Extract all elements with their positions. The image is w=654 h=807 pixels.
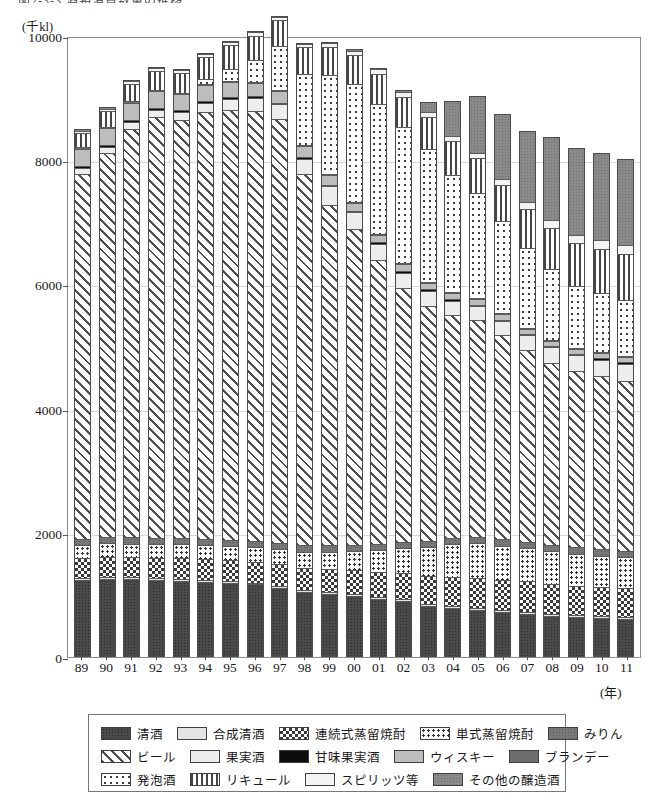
bar-column[interactable] xyxy=(292,38,317,657)
legend-swatch-icon xyxy=(433,773,463,786)
legend-item-スピリッツ等[interactable]: スピリッツ等 xyxy=(305,770,419,789)
stacked-bar[interactable] xyxy=(197,53,214,657)
legend-row: 発泡酒リキュールスピリッツ等その他の醸造酒 xyxy=(101,768,555,791)
legend-item-単式蒸留焼酎[interactable]: 単式蒸留焼酎 xyxy=(420,724,534,743)
bar-segment-単式蒸留焼酎 xyxy=(174,545,189,559)
bar-column[interactable] xyxy=(218,38,243,657)
bar-column[interactable] xyxy=(613,38,638,657)
bar-column[interactable] xyxy=(465,38,490,657)
bar-segment-連続式蒸留焼酎 xyxy=(297,569,312,591)
stacked-bar[interactable] xyxy=(370,68,387,657)
x-tick-label: 07 xyxy=(515,660,540,682)
bar-segment-単式蒸留焼酎 xyxy=(124,545,139,558)
legend-item-リキュール[interactable]: リキュール xyxy=(190,770,291,789)
stacked-bar[interactable] xyxy=(469,96,486,657)
bar-column[interactable] xyxy=(589,38,614,657)
legend-item-ウィスキー[interactable]: ウィスキー xyxy=(394,747,495,766)
legend-swatch-icon xyxy=(101,773,131,786)
bar-segment-清酒 xyxy=(371,600,386,656)
bar-segment-連続式蒸留焼酎 xyxy=(371,573,386,598)
stacked-bar[interactable] xyxy=(543,137,560,657)
stacked-bar[interactable] xyxy=(271,16,288,657)
legend-label: 連続式蒸留焼酎 xyxy=(315,724,406,743)
x-tick-label: 94 xyxy=(193,660,218,682)
bar-segment-リキュール xyxy=(470,159,485,194)
bar-column[interactable] xyxy=(243,38,268,657)
bar-segment-清酒 xyxy=(297,593,312,656)
bar-column[interactable] xyxy=(95,38,120,657)
legend-item-合成清酒[interactable]: 合成清酒 xyxy=(177,724,265,743)
bar-segment-ビール xyxy=(544,364,559,546)
stacked-bar[interactable] xyxy=(617,159,634,657)
bar-column[interactable] xyxy=(515,38,540,657)
stacked-bar[interactable] xyxy=(74,129,91,657)
bar-column[interactable] xyxy=(194,38,219,657)
bar-column[interactable] xyxy=(70,38,95,657)
bar-column[interactable] xyxy=(564,38,589,657)
bar-segment-清酒 xyxy=(445,609,460,656)
bar-column[interactable] xyxy=(441,38,466,657)
bar-column[interactable] xyxy=(268,38,293,657)
stacked-bar[interactable] xyxy=(593,153,610,657)
bar-column[interactable] xyxy=(391,38,416,657)
bar-segment-果実酒 xyxy=(544,348,559,363)
bar-column[interactable] xyxy=(490,38,515,657)
stacked-bar[interactable] xyxy=(99,107,116,657)
bar-segment-スピリッツ等 xyxy=(594,241,609,250)
bar-segment-ウィスキー xyxy=(272,92,287,104)
stacked-bar[interactable] xyxy=(123,80,140,657)
bar-segment-果実酒 xyxy=(495,322,510,336)
stacked-bar[interactable] xyxy=(346,49,363,657)
legend-item-連続式蒸留焼酎[interactable]: 連続式蒸留焼酎 xyxy=(279,724,406,743)
bar-segment-果実酒 xyxy=(223,100,238,111)
bar-segment-連続式蒸留焼酎 xyxy=(569,587,584,617)
bar-segment-果実酒 xyxy=(371,245,386,261)
bar-segment-果実酒 xyxy=(248,99,263,111)
bar-segment-清酒 xyxy=(198,583,213,656)
bar-column[interactable] xyxy=(169,38,194,657)
stacked-bar[interactable] xyxy=(494,114,511,657)
stacked-bar[interactable] xyxy=(321,42,338,657)
bar-column[interactable] xyxy=(144,38,169,657)
legend-item-その他の醸造酒[interactable]: その他の醸造酒 xyxy=(433,770,560,789)
bar-column[interactable] xyxy=(539,38,564,657)
stacked-bar[interactable] xyxy=(568,148,585,657)
bar-column[interactable] xyxy=(342,38,367,657)
legend-item-清酒[interactable]: 清酒 xyxy=(101,724,163,743)
stacked-bar[interactable] xyxy=(444,101,461,657)
bar-segment-果実酒 xyxy=(520,336,535,351)
bar-segment-発泡酒 xyxy=(544,270,559,341)
bar-segment-連続式蒸留焼酎 xyxy=(248,563,263,584)
legend-item-ビール[interactable]: ビール xyxy=(101,747,176,766)
bar-column[interactable] xyxy=(416,38,441,657)
legend-item-みりん[interactable]: みりん xyxy=(548,724,623,743)
bar-segment-単式蒸留焼酎 xyxy=(396,549,411,574)
bar-segment-連続式蒸留焼酎 xyxy=(198,560,213,581)
legend-item-ブランデー[interactable]: ブランデー xyxy=(509,747,610,766)
bar-segment-単式蒸留焼酎 xyxy=(445,545,460,578)
legend-item-発泡酒[interactable]: 発泡酒 xyxy=(101,770,176,789)
bar-segment-ビール xyxy=(445,316,460,539)
legend-item-果実酒[interactable]: 果実酒 xyxy=(190,747,265,766)
bar-segment-単式蒸留焼酎 xyxy=(322,553,337,570)
stacked-bar[interactable] xyxy=(148,67,165,657)
x-tick-label: 02 xyxy=(391,660,416,682)
bar-segment-リキュール xyxy=(124,85,139,102)
x-tick-label: 05 xyxy=(466,660,491,682)
bar-column[interactable] xyxy=(317,38,342,657)
stacked-bar[interactable] xyxy=(296,43,313,657)
stacked-bar[interactable] xyxy=(222,41,239,657)
bar-segment-連続式蒸留焼酎 xyxy=(322,570,337,593)
bar-column[interactable] xyxy=(366,38,391,657)
bar-segment-清酒 xyxy=(421,607,436,656)
legend-item-甘味果実酒[interactable]: 甘味果実酒 xyxy=(279,747,380,766)
bar-segment-果実酒 xyxy=(322,187,337,206)
stacked-bar[interactable] xyxy=(173,69,190,657)
bar-column[interactable] xyxy=(119,38,144,657)
bar-segment-清酒 xyxy=(470,611,485,656)
bar-segment-その他の醸造酒 xyxy=(470,97,485,154)
stacked-bar[interactable] xyxy=(395,90,412,657)
stacked-bar[interactable] xyxy=(420,102,437,657)
stacked-bar[interactable] xyxy=(519,131,536,657)
stacked-bar[interactable] xyxy=(247,31,264,657)
